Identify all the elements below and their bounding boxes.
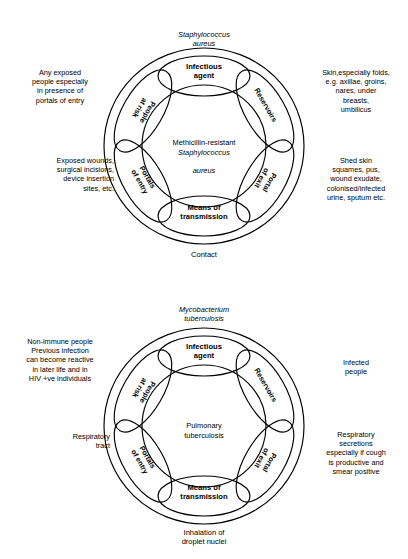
chain-of-infection-diagram-mrsa: Staphylococcus aureus Infectious agent M…: [0, 0, 408, 280]
centre-caption-italic-1: Staphylococcus: [144, 148, 264, 157]
annotation-reservoirs: Skin,especially folds, e.g. axillae, gro…: [304, 68, 408, 114]
node-label-means-of-transmission: Means of transmission: [164, 483, 244, 502]
node-label-infectious-agent: Infectious agent: [164, 62, 244, 81]
annotation-portals-of-entry: Exposed wounds, surgical incisions, devi…: [2, 156, 114, 193]
annotation-people-at-risk: Any exposed people especially in presenc…: [6, 68, 114, 105]
centre-caption-plain: Pulmonary tuberculosis: [184, 421, 223, 439]
centre-caption-tb: Pulmonary tuberculosis: [144, 412, 264, 440]
chain-of-infection-diagram-tb: Mycobacterium tuberculosis Infectious ag…: [0, 280, 408, 559]
centre-caption-italic-2: aureus: [144, 166, 264, 175]
node-label-means-of-transmission: Means of transmission: [164, 203, 244, 222]
annotation-reservoirs: Infected people: [304, 358, 408, 376]
annotation-portal-of-exit: Shed skin squames, pus, wound exudate, c…: [304, 156, 408, 202]
route-of-transmission-label: Inhalation of droplet nuclei: [154, 528, 254, 547]
route-of-transmission-label: Contact: [154, 250, 254, 259]
centre-caption-mrsa: Methicillin-resistant Staphylococcus aur…: [144, 129, 264, 185]
organism-name-label: Mycobacterium tuberculosis: [144, 305, 264, 324]
centre-caption-plain: Methicillin-resistant: [173, 138, 236, 147]
annotation-people-at-risk: Non-immune people Previous infection can…: [0, 337, 120, 383]
annotation-portal-of-exit: Respiratory secretions especially if cou…: [304, 430, 408, 476]
node-label-infectious-agent: Infectious agent: [164, 342, 244, 361]
organism-name-label: Staphylococcus aureus: [144, 30, 264, 49]
annotation-portals-of-entry: Respiratory tract: [2, 432, 110, 450]
